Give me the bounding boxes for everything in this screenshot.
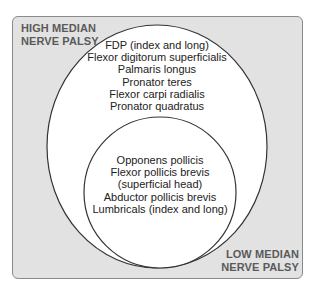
label-line: HIGH MEDIAN — [21, 22, 99, 35]
muscle-item: Abductor pollicis brevis — [85, 191, 235, 203]
muscle-item: Flexor carpi radialis — [57, 88, 257, 100]
label-line: LOW MEDIAN — [221, 248, 299, 261]
low-median-label: LOW MEDIAN NERVE PALSY — [221, 248, 299, 274]
muscle-item: Palmaris longus — [57, 63, 257, 75]
muscle-item: Pronator teres — [57, 76, 257, 88]
muscle-item: Opponens pollicis — [85, 154, 235, 166]
low-median-muscle-list: Opponens pollicis Flexor pollicis brevis… — [85, 154, 235, 215]
muscle-item: Flexor pollicis brevis — [85, 166, 235, 178]
label-line: NERVE PALSY — [221, 261, 299, 274]
muscle-item: FDP (index and long) — [57, 39, 257, 51]
high-median-muscle-list: FDP (index and long) Flexor digitorum su… — [57, 39, 257, 112]
muscle-item: Lumbricals (index and long) — [85, 203, 235, 215]
muscle-item: Pronator quadratus — [57, 100, 257, 112]
muscle-item: (superficial head) — [85, 178, 235, 190]
muscle-item: Flexor digitorum superficialis — [57, 51, 257, 63]
